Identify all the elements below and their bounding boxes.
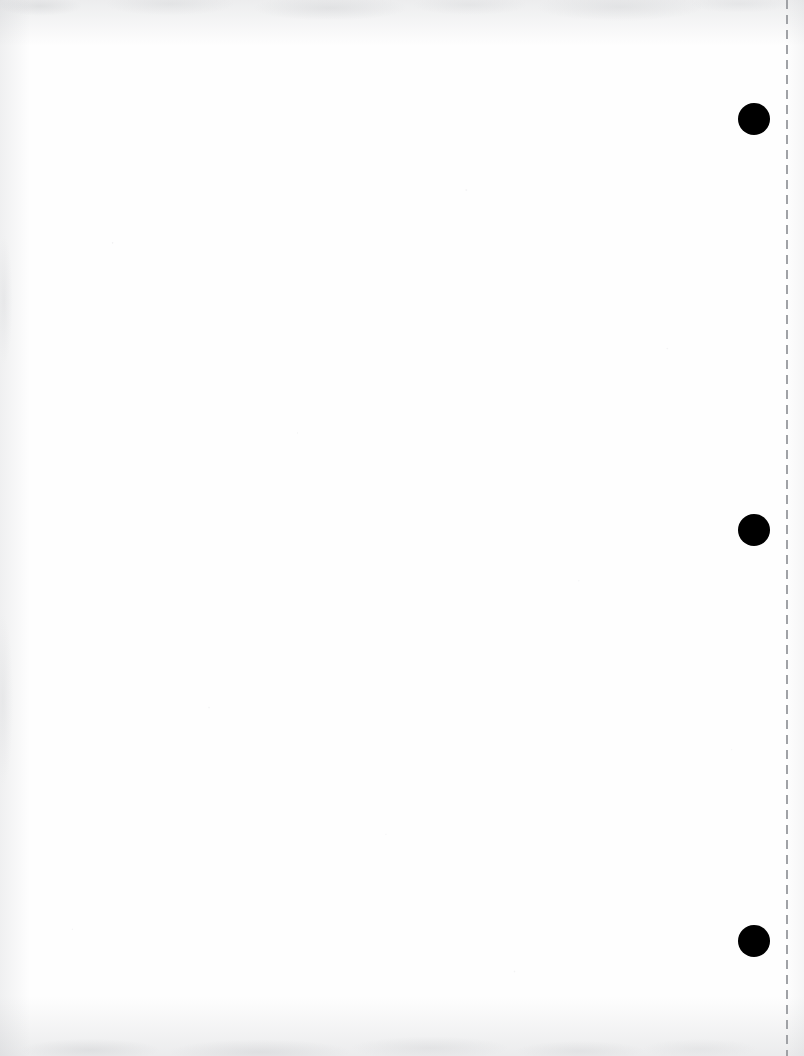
punch-hole-middle <box>738 514 770 546</box>
punch-hole-top <box>738 103 770 135</box>
paper-surface <box>0 0 804 1056</box>
punch-hole-bottom <box>738 925 770 957</box>
scanned-page <box>0 0 804 1056</box>
